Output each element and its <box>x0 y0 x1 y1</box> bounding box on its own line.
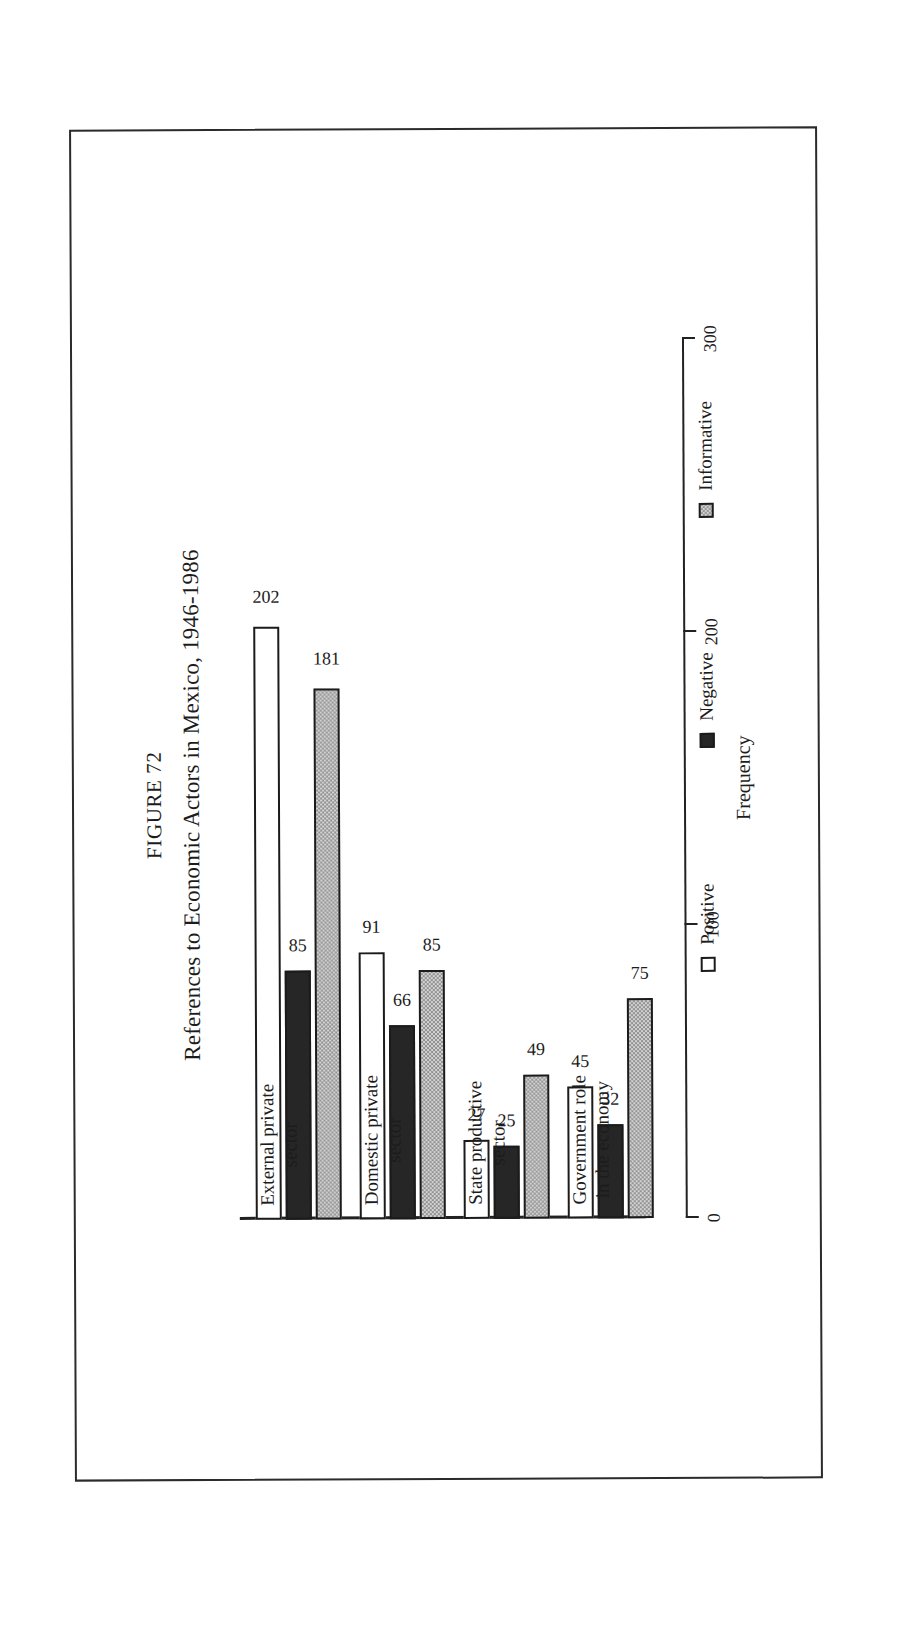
bar-value-domestic-positive: 91 <box>362 917 380 938</box>
legend-item-negative[interactable]: Negative <box>695 652 717 748</box>
category-label-external-line2: sector <box>278 1084 302 1206</box>
white-square-icon <box>700 957 715 972</box>
bar-domestic-informative[interactable] <box>419 970 446 1219</box>
value-axis-line <box>682 338 688 1218</box>
bar-value-domestic-negative: 66 <box>393 990 411 1011</box>
figure-number: FIGURE 72 <box>139 190 169 1420</box>
category-label-domestic-line1: Domestic private <box>359 1075 383 1205</box>
chart-legend: Positive Negative Informative <box>694 338 754 1218</box>
figure-title-block: FIGURE 72 References to Economic Actors … <box>139 190 207 1420</box>
figure-caption: References to Economic Actors in Mexico,… <box>176 190 207 1420</box>
category-label-government-line1: Government role <box>567 1075 591 1204</box>
rotated-figure-stage: FIGURE 72 References to Economic Actors … <box>133 188 758 1421</box>
category-label-state: State productive sector <box>463 1081 510 1205</box>
category-label-state-line1: State productive <box>463 1081 487 1205</box>
category-label-domestic-line2: sector <box>382 1075 406 1205</box>
category-label-external: External private sector <box>255 1084 302 1206</box>
figure-bar-chart: FIGURE 72 References to Economic Actors … <box>133 188 758 1421</box>
legend-item-positive[interactable]: Positive <box>696 884 718 972</box>
category-label-external-line1: External private <box>255 1084 279 1206</box>
bar-government-informative[interactable] <box>627 998 654 1218</box>
page-border: FIGURE 72 References to Economic Actors … <box>69 126 823 1481</box>
bar-value-external-positive: 202 <box>253 587 280 608</box>
bar-value-government-informative: 75 <box>631 963 649 984</box>
legend-label-negative: Negative <box>695 652 717 721</box>
bar-external-informative[interactable] <box>313 688 341 1219</box>
legend-label-informative: Informative <box>694 401 716 491</box>
black-square-icon <box>699 733 714 748</box>
bar-value-state-informative: 49 <box>527 1039 545 1060</box>
category-label-government-line2: in the economy <box>590 1075 614 1204</box>
bar-value-government-positive: 45 <box>571 1051 589 1072</box>
category-label-domestic: Domestic private sector <box>359 1075 406 1206</box>
bar-value-external-negative: 85 <box>289 935 307 956</box>
category-label-state-line2: sector <box>486 1081 510 1205</box>
bar-value-domestic-informative: 85 <box>423 935 441 956</box>
category-label-government: Government role in the economy <box>567 1075 614 1204</box>
bar-state-informative[interactable] <box>523 1075 550 1219</box>
gray-hatched-square-icon <box>698 503 713 518</box>
bar-value-external-informative: 181 <box>313 648 340 669</box>
legend-item-informative[interactable]: Informative <box>694 401 717 518</box>
plot-area: 45 32 75 Government role in the economy … <box>229 188 664 1420</box>
legend-label-positive: Positive <box>696 884 718 945</box>
